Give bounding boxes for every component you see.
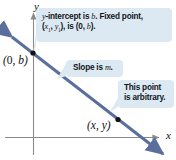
callout-text-is-open: ), is ( bbox=[61, 22, 79, 31]
callout-slope-text: Slope is bbox=[73, 63, 105, 72]
callout-y-intercept: y-intercept is b. Fixed point, (x1, y1),… bbox=[36, 8, 172, 42]
callout-y-intercept-line-1: y-intercept is b. Fixed point, bbox=[42, 12, 167, 22]
callout-arbitrary-line-1: This point bbox=[124, 83, 174, 93]
callout-slope: Slope is m. bbox=[66, 60, 123, 77]
label-point-arbitrary: (x, y) bbox=[87, 119, 111, 131]
arbitrary-callout-tail bbox=[110, 98, 118, 112]
point-y-intercept bbox=[30, 50, 35, 55]
callout-slope-line-1: Slope is m. bbox=[73, 63, 123, 73]
callout-y-intercept-line-2: (x1, y1), is (0, b). bbox=[42, 22, 167, 33]
callout-y-intercept-text-2: . Fixed point, bbox=[95, 12, 143, 21]
callout-slope-period: . bbox=[111, 63, 113, 72]
callout-y-intercept-text-1: -intercept is bbox=[45, 12, 91, 21]
label-intercept-paren-close: ) bbox=[24, 54, 28, 66]
callout-paren-close: ). bbox=[91, 22, 96, 31]
callout-arbitrary-point: This point is arbitrary. bbox=[118, 80, 174, 108]
point-arbitrary bbox=[115, 117, 120, 122]
axis-label-x: x bbox=[166, 129, 171, 141]
label-point-y-intercept: (0, b) bbox=[3, 54, 28, 66]
label-arbitrary-paren-close: ) bbox=[107, 119, 111, 131]
figure-container: y-intercept is b. Fixed point, (x1, y1),… bbox=[0, 0, 176, 160]
axis-label-y: y bbox=[34, 0, 39, 12]
callout-arbitrary-line-2: is arbitrary. bbox=[124, 93, 174, 103]
